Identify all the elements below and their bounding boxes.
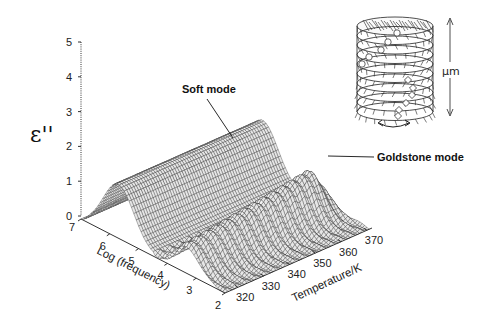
goldstone-mode-label: Goldstone mode [377,151,464,163]
frequency-tick-label: 3 [186,284,192,296]
micrometer-label: μm [442,65,460,78]
temperature-tick-label: 320 [236,291,254,303]
temperature-tick-label: 360 [339,246,357,258]
z-tick-label: 1 [66,175,72,187]
z-tick-label: 3 [66,106,72,118]
temperature-tick-label: 370 [365,234,383,246]
z-axis: 012345 [66,36,81,222]
rotation-arrow-icon [378,120,410,127]
z-tick-label: 5 [66,36,72,48]
surface-plot-figure: 012345 ε'' 765432 Log (frequency) 320330… [0,0,485,319]
z-tick-label: 4 [66,71,72,83]
goldstone-mode-annotation: Goldstone mode [328,151,464,163]
soft-mode-label: Soft mode [182,83,236,95]
z-tick-label: 2 [66,140,72,152]
temperature-tick-label: 340 [287,268,305,280]
scale-arrow: μm [442,18,462,116]
temperature-tick-label: 350 [313,257,331,269]
frequency-tick-label: 7 [69,221,75,233]
soft-mode-annotation: Soft mode [182,83,236,138]
helix-layer-illustration [354,17,435,126]
temperature-tick-label: 330 [262,280,280,292]
frequency-tick-label: 2 [215,299,221,311]
z-axis-label: ε'' [30,122,54,147]
